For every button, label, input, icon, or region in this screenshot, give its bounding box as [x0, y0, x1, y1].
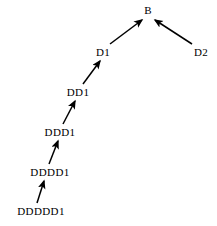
node-label-dd1: DD1 [67, 86, 90, 98]
graph-edges-layer [0, 0, 217, 226]
edge-dd1-to-d1 [83, 61, 100, 84]
edge-ddddd1-to-dddd1 [37, 181, 44, 203]
node-label-ddd1: DDD1 [45, 126, 76, 138]
node-label-ddddd1: DDDDD1 [17, 205, 65, 217]
edge-ddd1-to-dd1 [63, 101, 75, 124]
node-label-dddd1: DDDD1 [30, 166, 69, 178]
node-label-d2: D2 [194, 46, 208, 58]
edge-d2-to-b [155, 20, 192, 44]
edge-dddd1-to-ddd1 [49, 141, 58, 164]
edge-d1-to-b [110, 20, 142, 44]
node-label-d1: D1 [96, 46, 110, 58]
inheritance-diagram: BD1D2DD1DDD1DDDD1DDDDD1 [0, 0, 217, 226]
node-label-b: B [144, 4, 152, 16]
